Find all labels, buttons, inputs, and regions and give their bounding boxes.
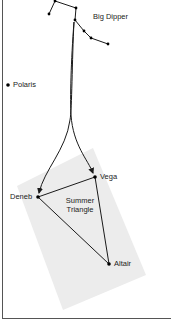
big-dipper-stars: [48, 0, 110, 45]
altair-label: Altair: [114, 260, 131, 268]
deneb-star-icon: [36, 195, 40, 199]
star-icon: [48, 13, 51, 16]
deneb-label: Deneb: [10, 193, 32, 201]
vega-star-icon: [93, 175, 97, 179]
polaris-label: Polaris: [13, 81, 36, 89]
summer-triangle-label-line2: Triangle: [60, 205, 100, 214]
frame-left-border: [2, 0, 3, 319]
star-icon: [83, 30, 86, 33]
altair-star-icon: [107, 262, 111, 266]
summer-triangle-label-line1: Summer: [60, 196, 100, 205]
polaris-star-icon: [6, 83, 10, 87]
star-icon: [90, 37, 93, 40]
star-chart-diagram: Big Dipper Polaris Vega Deneb Altair Sum…: [0, 0, 171, 321]
star-icon: [107, 43, 110, 46]
star-icon: [74, 19, 77, 22]
big-dipper-asterism: [49, 1, 108, 44]
summer-triangle-shaded-region: [17, 148, 146, 310]
summer-triangle-label: Summer Triangle: [60, 196, 100, 214]
star-chart-svg: [0, 0, 171, 321]
frame-bottom-border: [2, 318, 171, 319]
star-icon: [75, 7, 78, 10]
big-dipper-label: Big Dipper: [93, 13, 128, 21]
vega-label: Vega: [100, 173, 117, 181]
